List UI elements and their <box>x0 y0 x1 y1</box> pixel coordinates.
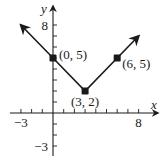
y-tick-label: −3 <box>34 139 48 154</box>
data-point <box>50 55 57 62</box>
axes <box>10 6 158 156</box>
data-point <box>114 55 121 62</box>
y-axis-label: y <box>39 1 47 16</box>
chart: −388−3xy(0, 5)(3, 2)(6, 5) <box>0 0 160 162</box>
x-axis-label: x <box>150 97 157 112</box>
point-label: (6, 5) <box>122 56 150 71</box>
point-label: (0, 5) <box>59 47 87 62</box>
point-label: (3, 2) <box>71 94 99 109</box>
x-tick-label: 8 <box>135 115 142 130</box>
x-tick-label: −3 <box>14 115 28 130</box>
y-tick-label: 8 <box>42 18 49 33</box>
labels: −388−3xy(0, 5)(3, 2)(6, 5) <box>14 1 157 154</box>
